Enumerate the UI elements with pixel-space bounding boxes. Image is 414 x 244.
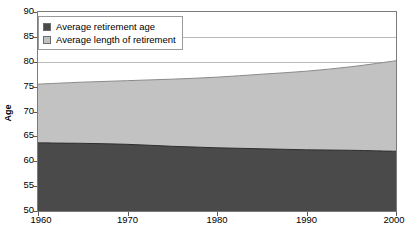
x-tick-label: 1960 — [31, 214, 52, 225]
y-axis-ticks: 505560657075808590 — [0, 0, 34, 244]
x-tick-mark — [217, 212, 218, 216]
y-tick-mark — [33, 12, 37, 13]
legend-item-average-length-of-retirement: Average length of retirement — [43, 33, 176, 46]
area-chart: Age 505560657075808590 19601970198019902… — [0, 0, 414, 244]
x-tick-mark — [38, 212, 39, 216]
legend-swatch-icon — [43, 23, 51, 31]
y-tick-label: 80 — [2, 56, 34, 66]
y-tick-mark — [33, 62, 37, 63]
legend-swatch-icon — [43, 36, 51, 44]
legend-item-label: Average length of retirement — [56, 34, 176, 45]
y-tick-mark — [33, 136, 37, 137]
x-tick-label: 2000 — [384, 214, 405, 225]
y-tick-label: 50 — [2, 205, 34, 215]
x-tick-mark — [307, 212, 308, 216]
y-tick-label: 90 — [2, 6, 34, 16]
legend-item-label: Average retirement age — [56, 21, 155, 32]
y-tick-mark — [33, 211, 37, 212]
y-tick-label: 55 — [2, 180, 34, 190]
y-tick-mark — [33, 112, 37, 113]
y-tick-mark — [33, 161, 37, 162]
legend-item-average-retirement-age: Average retirement age — [43, 20, 176, 33]
y-tick-mark — [33, 37, 37, 38]
x-tick-mark — [128, 212, 129, 216]
x-tick-mark — [396, 212, 397, 216]
y-tick-label: 60 — [2, 155, 34, 165]
y-tick-label: 70 — [2, 106, 34, 116]
y-tick-mark — [33, 186, 37, 187]
y-tick-label: 75 — [2, 81, 34, 91]
area-average-retirement-age — [38, 143, 396, 211]
y-tick-label: 85 — [2, 31, 34, 41]
area-average-length-of-retirement — [38, 61, 396, 152]
y-tick-mark — [33, 87, 37, 88]
y-tick-label: 65 — [2, 130, 34, 140]
legend: Average retirement age Average length of… — [38, 16, 183, 50]
